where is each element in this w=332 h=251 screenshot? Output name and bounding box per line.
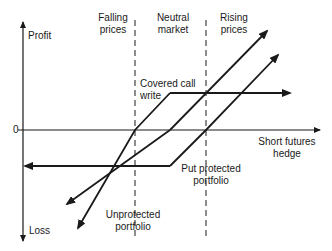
covered-call-label: Covered call write (140, 78, 196, 102)
region-neutral-label: Neutral market (148, 12, 198, 36)
origin-label: 0 (13, 124, 19, 136)
x-axis-label: Short futures hedge (254, 136, 320, 160)
profit-label: Profit (28, 30, 51, 42)
covered-call-line (78, 93, 170, 228)
region-falling-label: Falling prices (96, 12, 130, 36)
put-protected-label: Put protected portfolio (176, 163, 246, 187)
unprotected-label: Unprotected portfolio (100, 209, 166, 233)
region-rising-label: Rising prices (214, 12, 254, 36)
unprotected-line-down (67, 130, 170, 204)
loss-label: Loss (29, 225, 50, 237)
